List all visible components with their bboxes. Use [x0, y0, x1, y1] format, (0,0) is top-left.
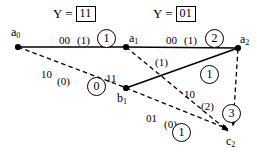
branch-label-a1-a2-metric: (1) — [184, 35, 197, 46]
path-metric-c2-bottom: 1 — [172, 123, 191, 142]
branch-label-a0-a1-input: 00 — [59, 35, 70, 46]
y-header-left-value: 11 — [76, 6, 96, 22]
y-header-left-prefix: Y = — [53, 7, 73, 20]
y-header-left: Y = 11 — [53, 6, 96, 22]
path-metric-b1: 0 — [87, 77, 106, 96]
path-metric-a2-top: 2 — [205, 29, 224, 48]
branch-label-a0-a1-metric: (1) — [77, 35, 90, 46]
node-label-a2: a2 — [240, 33, 249, 45]
node-label-c2-sub: 2 — [231, 140, 235, 149]
branch-label-b1-c2-input: 01 — [146, 113, 157, 124]
node-label-c2: c2 — [226, 135, 235, 147]
y-header-right-prefix: Y = — [153, 7, 173, 20]
y-header-right: Y = 01 — [153, 6, 196, 22]
node-label-a1-sub: 1 — [134, 37, 138, 46]
node-label-a0-sub: 0 — [16, 31, 20, 40]
node-label-b1-sub: 1 — [123, 97, 127, 106]
branch-label-a1-a2-input: 00 — [166, 35, 177, 46]
path-metric-c2-top: 3 — [222, 104, 241, 123]
branch-label-a0-b1-metric: (0) — [57, 76, 70, 87]
node-a0[interactable] — [15, 44, 21, 50]
node-label-a0: a0 — [11, 26, 20, 38]
node-label-b1: b1 — [117, 92, 127, 104]
path-metric-a2-bottom: 1 — [200, 65, 219, 84]
y-header-right-value: 01 — [176, 6, 197, 22]
branch-label-b1-a2-input: 11 — [106, 73, 117, 84]
node-b1[interactable] — [123, 85, 129, 91]
edge-a1-c2 — [126, 47, 228, 131]
node-label-a1: a1 — [129, 32, 138, 44]
node-label-a2-sub: 2 — [245, 38, 249, 47]
trellis-diagram: Y = 11 Y = 01 a0 a1 a2 b1 c2 00 (1) 00 (… — [0, 0, 257, 152]
branch-label-a1-c2-input: 10 — [184, 89, 195, 100]
branch-label-a0-b1-input: 10 — [41, 69, 52, 80]
edge-b1-a2 — [126, 48, 238, 88]
branch-label-a1-c2-metric: (2) — [201, 101, 214, 112]
edge-a1-a2 — [126, 47, 238, 48]
path-metric-a1: 1 — [97, 29, 116, 48]
branch-label-b1-a2-metric: (1) — [155, 57, 168, 68]
